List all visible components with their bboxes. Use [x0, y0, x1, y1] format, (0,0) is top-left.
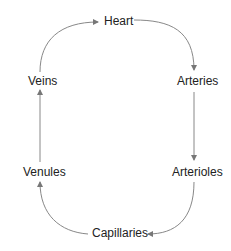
node-venules: Venules: [23, 165, 66, 179]
node-capillaries: Capillaries: [92, 226, 148, 240]
arrow-heart-to-arteries: [134, 20, 194, 70]
node-heart: Heart: [104, 14, 133, 28]
arrow-arterioles-to-capillaries: [148, 182, 194, 234]
cycle-arrows: [0, 0, 231, 251]
node-veins: Veins: [28, 74, 57, 88]
arrow-capillaries-to-venules: [40, 182, 88, 234]
node-arteries: Arteries: [177, 74, 218, 88]
node-arterioles: Arterioles: [172, 165, 223, 179]
arrow-veins-to-heart: [40, 22, 98, 72]
